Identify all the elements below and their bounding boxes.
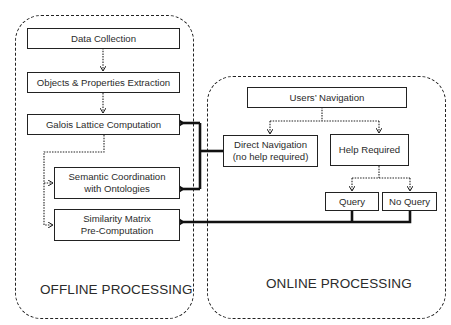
query-node: Query xyxy=(325,192,379,211)
users-navigation-node: Users’ Navigation xyxy=(247,87,407,108)
no-query-node: No Query xyxy=(382,192,437,211)
direct-navigation-node: Direct Navigation (no help required) xyxy=(223,135,318,167)
similarity-matrix-node: Similarity Matrix Pre-Computation xyxy=(54,209,180,241)
offline-processing-label: OFFLINE PROCESSING xyxy=(40,282,193,297)
help-required-node: Help Required xyxy=(330,134,409,166)
galois-lattice-computation-node: Galois Lattice Computation xyxy=(27,114,180,135)
data-collection-node: Data Collection xyxy=(27,28,180,49)
online-processing-label: ONLINE PROCESSING xyxy=(266,276,412,291)
objects-properties-extraction-node: Objects & Properties Extraction xyxy=(27,72,180,93)
semantic-coordination-node: Semantic Coordination with Ontologies xyxy=(54,167,180,199)
